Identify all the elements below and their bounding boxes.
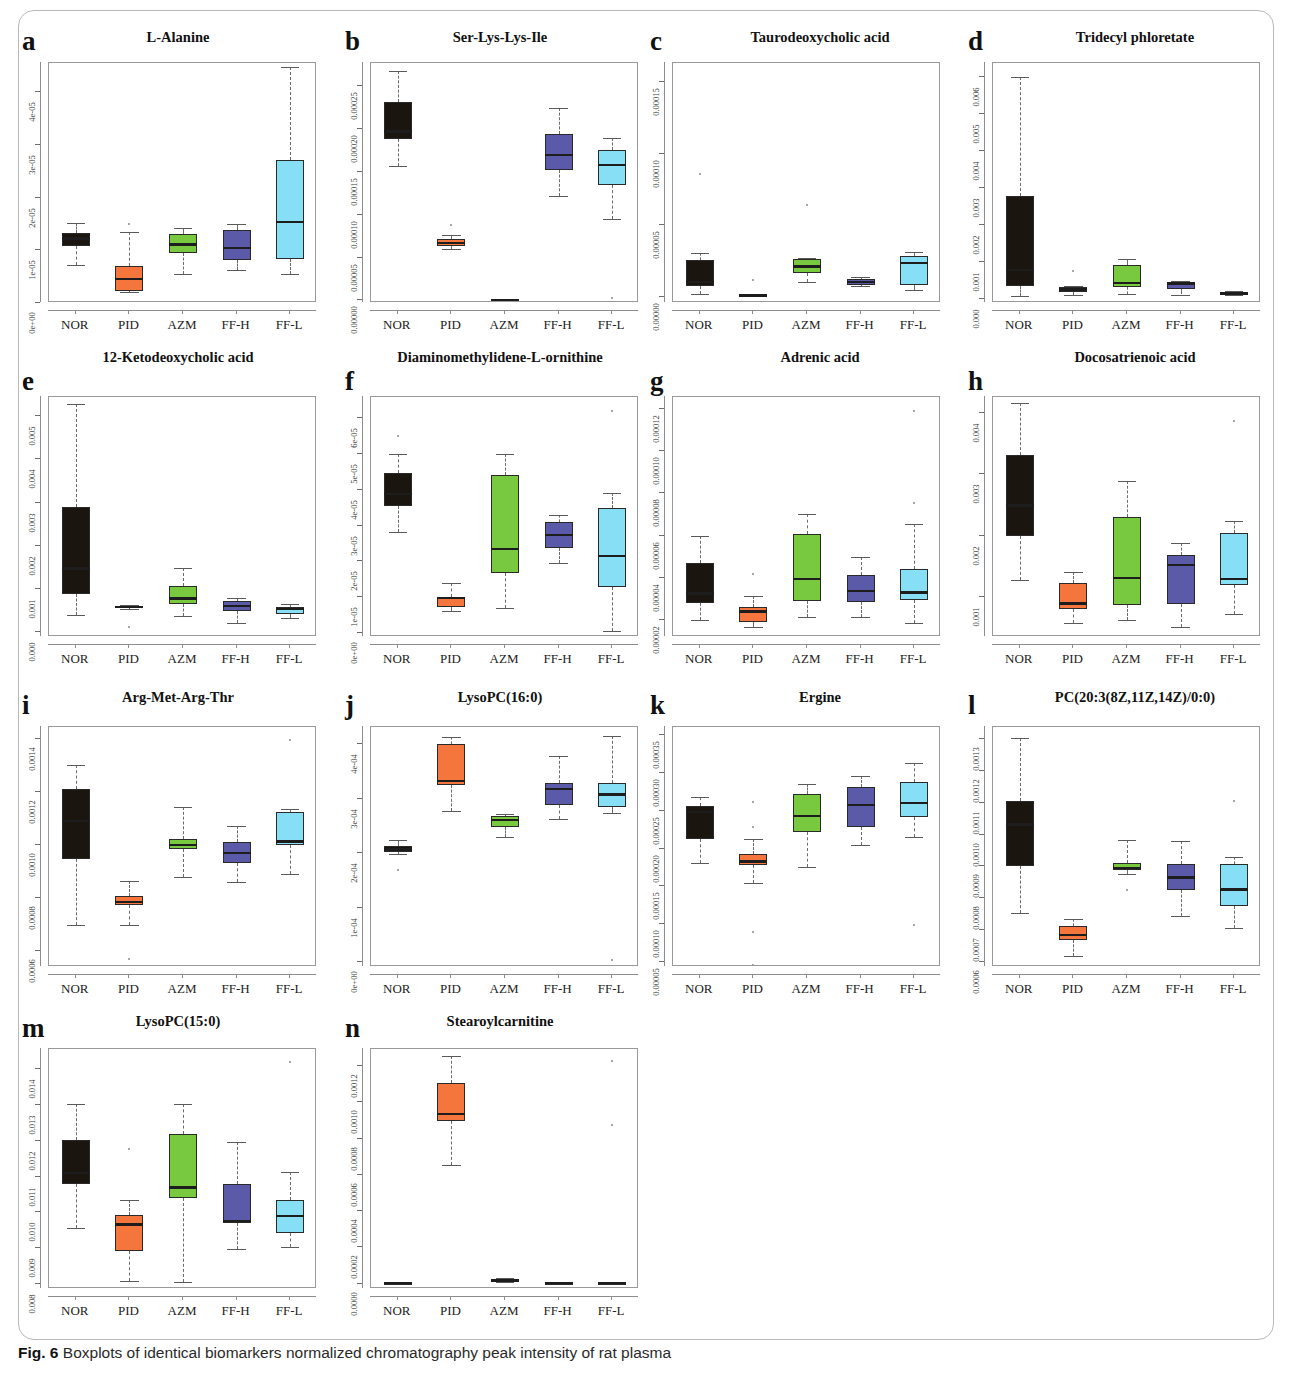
figure-caption-label: Fig. 6 — [18, 1344, 58, 1361]
figure-frame — [18, 10, 1274, 1340]
figure-caption-text: Boxplots of identical biomarkers normali… — [63, 1344, 671, 1361]
figure-caption: Fig. 6 Boxplots of identical biomarkers … — [18, 1344, 1274, 1363]
